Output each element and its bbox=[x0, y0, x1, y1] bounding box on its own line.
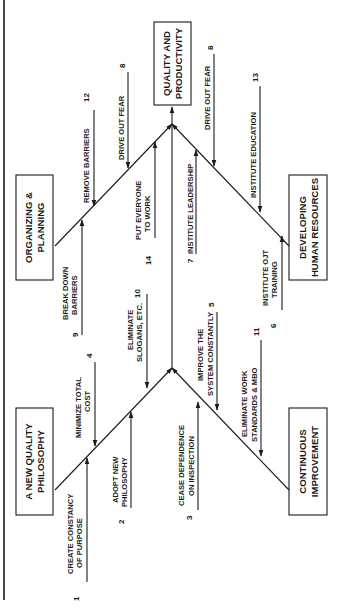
cause-label-2-line-1: ADOPT NEW bbox=[111, 456, 120, 503]
cause-label-8b-line-1: DRIVE OUT FEAR bbox=[203, 65, 212, 130]
cause-label-4-line-1: MINIMIZE TOTAL bbox=[74, 377, 83, 438]
cause-number-10: 10 bbox=[133, 289, 142, 298]
category-label-line-2: IMPROVEMENT bbox=[309, 426, 320, 498]
category-label-line-1: A NEW QUALITY bbox=[23, 423, 34, 500]
category-box-continuous: CONTINUOUS IMPROVEMENT bbox=[289, 408, 327, 515]
cause-label-2-line-2: PHILOSOPHY bbox=[120, 457, 129, 507]
cause-label-11-line-2: STANDARDS & MBO bbox=[250, 367, 259, 442]
cause-label-5-line-1: IMPROVE THE bbox=[196, 329, 205, 381]
cause-label-6-line-2: TRAINING bbox=[270, 261, 279, 298]
cause-number-3: 3 bbox=[185, 515, 194, 520]
cause-number-14: 14 bbox=[144, 256, 153, 265]
category-label-line-1: CONTINUOUS bbox=[297, 429, 308, 494]
cause-label-14-line-2: TO WORK bbox=[143, 195, 152, 232]
cause-label-13-line-1: INSTITUTE EDUCATION bbox=[249, 112, 258, 198]
cause-label-8-line-1: DRIVE OUT FEAR bbox=[117, 95, 126, 160]
category-box-philosophy: A NEW QUALITY PHILOSOPHY bbox=[16, 408, 53, 515]
cause-number-4: 4 bbox=[85, 353, 94, 358]
fishbone-diagram: QUALITY AND PRODUCTIVITY A NEW QUALITY P… bbox=[0, 0, 346, 616]
cause-label-10-line-2: SLOGANS, ETC. bbox=[135, 303, 144, 362]
category-label-line-1: DEVELOPING bbox=[297, 196, 308, 259]
category-box-organizing: ORGANIZING & PLANNING bbox=[16, 175, 53, 280]
cause-number-1: 1 bbox=[72, 596, 81, 601]
cause-label-9-line-2: BARRIERS bbox=[70, 275, 79, 315]
cause-label-12-line-1: REMOVE BARRIERS bbox=[82, 128, 91, 203]
cause-label-11-line-1: ELIMINATE WORK bbox=[240, 370, 249, 437]
cause-number-13: 13 bbox=[251, 73, 260, 82]
cause-label-1-line-2: OF PURPOSE bbox=[75, 518, 84, 568]
cause-label-14-line-1: PUT EVERYONE bbox=[134, 181, 143, 240]
cause-number-12: 12 bbox=[82, 93, 91, 102]
cause-label-10-line-1: ELIMINATE bbox=[126, 310, 135, 350]
category-label-line-2: PLANNING bbox=[35, 202, 46, 252]
cause-number-7: 7 bbox=[186, 258, 195, 263]
cause-number-2: 2 bbox=[117, 519, 126, 524]
cause-number-8b: 8 bbox=[206, 45, 215, 50]
cause-label-7-line-1: INSTITUTE LEADERSHIP bbox=[186, 164, 195, 254]
cause-number-5: 5 bbox=[207, 302, 216, 307]
cause-label-9-line-1: BREAK DOWN bbox=[61, 267, 70, 320]
category-label-line-2: HUMAN RESOURCES bbox=[309, 177, 320, 277]
cause-label-5-line-2: SYSTEM CONSTANTLY bbox=[206, 312, 215, 396]
cause-number-8: 8 bbox=[118, 63, 127, 68]
category-box-human: DEVELOPING HUMAN RESOURCES bbox=[289, 175, 327, 280]
cause-label-1-line-1: CREATE CONSTANCY bbox=[66, 494, 75, 574]
cause-label-3-line-2: ON INSPECTION bbox=[187, 436, 196, 496]
effect-label-line-1: QUALITY AND bbox=[161, 31, 172, 96]
cause-label-4-line-2: COST bbox=[83, 391, 92, 412]
category-label-line-1: ORGANIZING & bbox=[23, 192, 34, 263]
effect-box-quality-productivity: QUALITY AND PRODUCTIVITY bbox=[154, 22, 191, 105]
category-label-line-2: PHILOSOPHY bbox=[35, 429, 46, 493]
effect-label-line-2: PRODUCTIVITY bbox=[173, 27, 184, 99]
cause-number-11: 11 bbox=[252, 327, 261, 336]
cause-number-9: 9 bbox=[71, 332, 80, 337]
cause-label-6-line-1: INSTITUTE OJT bbox=[261, 250, 270, 306]
cause-number-6: 6 bbox=[269, 323, 278, 328]
cause-label-3-line-1: CEASE DEPENDENCE bbox=[177, 425, 186, 506]
